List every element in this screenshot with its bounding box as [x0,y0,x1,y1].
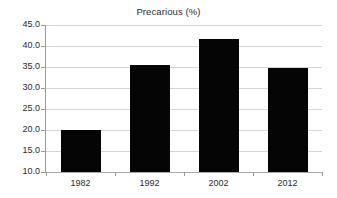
x-axis-tick-label: 1992 [120,178,180,188]
y-axis-tick-label: 45.0 [0,19,40,29]
y-axis-tick-label: 35.0 [0,61,40,71]
chart-title: Precarious (%) [0,6,337,17]
plot-area [46,25,322,172]
bar [199,39,239,172]
x-axis-tick-label: 2002 [189,178,249,188]
bar [130,65,170,172]
y-axis-tick [41,67,46,68]
y-axis-labels: 45.040.035.030.025.020.015.010.0 [0,0,40,198]
gridline [46,25,322,26]
x-axis-tick [46,172,47,176]
y-axis-tick-label: 20.0 [0,124,40,134]
x-axis-tick-label: 1982 [51,178,111,188]
bar [268,68,308,172]
y-axis-tick [41,172,46,173]
x-axis-tick [253,172,254,176]
x-axis-tick [322,172,323,176]
y-axis-tick [41,109,46,110]
bar [61,130,101,172]
bar-chart: Precarious (%) 45.040.035.030.025.020.01… [0,0,337,198]
x-axis-tick [115,172,116,176]
y-axis-tick [41,151,46,152]
y-axis-tick-label: 25.0 [0,103,40,113]
y-axis-tick-label: 30.0 [0,82,40,92]
y-axis-tick [41,46,46,47]
x-axis-tick-label: 2012 [258,178,318,188]
y-axis-tick-label: 15.0 [0,145,40,155]
y-axis-tick-label: 40.0 [0,40,40,50]
y-axis-tick [41,130,46,131]
x-axis-tick [184,172,185,176]
gridline [46,46,322,47]
y-axis-tick-label: 10.0 [0,166,40,176]
y-axis-tick [41,88,46,89]
y-axis-tick [41,25,46,26]
